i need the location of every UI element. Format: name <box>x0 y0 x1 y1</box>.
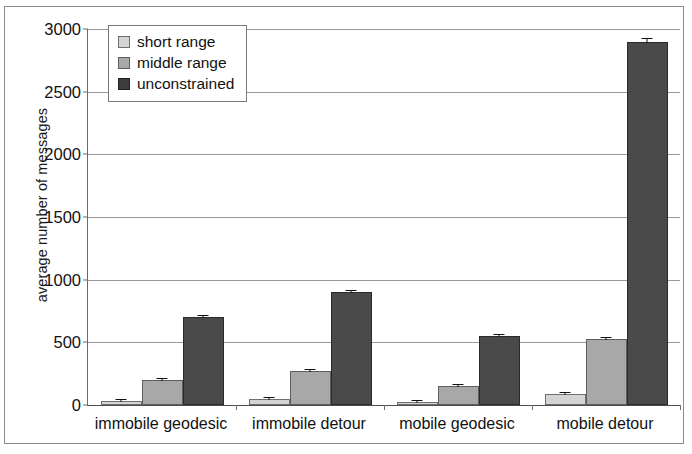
legend-label: short range <box>137 33 215 51</box>
x-axis-tick <box>384 405 385 410</box>
x-axis-label: immobile detour <box>252 415 366 433</box>
legend-swatch-icon <box>118 78 130 90</box>
y-tick-label: 2500 <box>44 82 81 101</box>
error-bar-cap <box>601 337 612 338</box>
bar[interactable] <box>545 394 586 405</box>
bar-group <box>236 29 384 405</box>
legend-swatch-icon <box>118 36 130 48</box>
x-axis-tick <box>680 405 681 410</box>
bar[interactable] <box>101 401 142 405</box>
x-axis-category-labels: immobile geodesicimmobile detourmobile g… <box>87 415 679 441</box>
bar-group <box>384 29 532 405</box>
bar[interactable] <box>479 336 520 405</box>
chart-figure: average number of messages 3000250020001… <box>4 6 684 444</box>
y-axis-title: average number of messages <box>34 75 50 335</box>
x-axis-label: immobile geodesic <box>95 415 228 433</box>
y-tick-label: 1500 <box>44 208 81 227</box>
y-tick-label: 3000 <box>44 20 81 39</box>
error-bar-cap <box>305 369 316 370</box>
legend-label: middle range <box>137 54 227 72</box>
y-tick-label: 2000 <box>44 145 81 164</box>
bar[interactable] <box>438 386 479 405</box>
y-tick-label: 0 <box>72 396 81 415</box>
error-bar-cap <box>264 397 275 398</box>
error-bar-cap <box>560 392 571 393</box>
bar[interactable] <box>627 42 668 405</box>
error-bar-cap <box>116 399 127 400</box>
error-bar-cap <box>642 38 653 39</box>
error-bar-cap <box>494 334 505 335</box>
chart-legend: short rangemiddle rangeunconstrained <box>108 25 247 102</box>
x-axis-label: mobile detour <box>557 415 654 433</box>
bar[interactable] <box>183 317 224 405</box>
bar[interactable] <box>397 402 438 405</box>
bar[interactable] <box>331 292 372 405</box>
bar[interactable] <box>142 380 183 405</box>
bar[interactable] <box>586 339 627 405</box>
error-bar-cap <box>157 378 168 379</box>
bar[interactable] <box>290 371 331 405</box>
bar-group <box>532 29 680 405</box>
legend-item[interactable]: short range <box>118 32 234 52</box>
x-axis-tick <box>236 405 237 410</box>
error-bar-cap <box>412 400 423 401</box>
legend-swatch-icon <box>118 57 130 69</box>
legend-item[interactable]: unconstrained <box>118 74 234 94</box>
x-axis-label: mobile geodesic <box>399 415 515 433</box>
legend-item[interactable]: middle range <box>118 53 234 73</box>
bar[interactable] <box>249 399 290 405</box>
y-tick-label: 500 <box>53 333 81 352</box>
x-axis-tick <box>532 405 533 410</box>
error-bar-cap <box>346 290 357 291</box>
error-bar-cap <box>198 315 209 316</box>
error-bar-cap <box>453 384 464 385</box>
y-tick-label: 1000 <box>44 270 81 289</box>
legend-label: unconstrained <box>137 75 234 93</box>
